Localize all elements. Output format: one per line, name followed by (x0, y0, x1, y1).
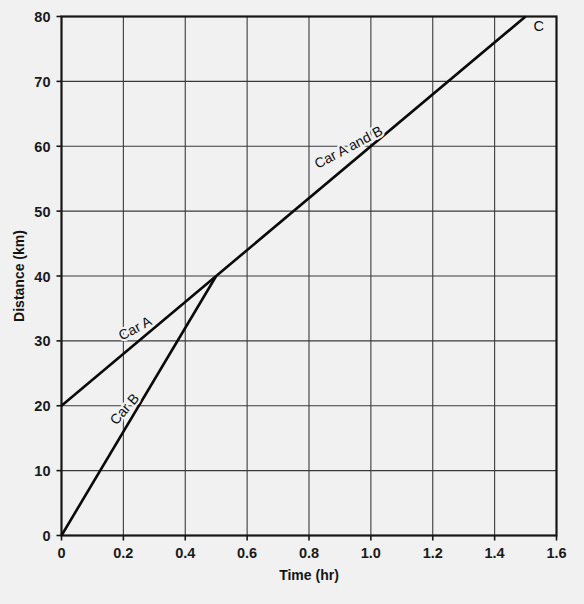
x-tick-label: 1.6 (546, 545, 566, 561)
x-tick-label: 0.6 (237, 545, 257, 561)
y-tick-label: 80 (34, 9, 50, 25)
point-annotation-label: C (534, 18, 544, 34)
x-tick-label: 0.8 (299, 545, 319, 561)
x-tick-label: 1.2 (423, 545, 443, 561)
distance-time-chart: 00.20.40.60.81.01.21.41.6 01020304050607… (0, 0, 584, 604)
series-label-group: Car ACar A (116, 312, 155, 343)
axis-tickmarks (57, 17, 557, 541)
x-tick-label: 0.2 (113, 545, 133, 561)
x-axis-tick-labels: 00.20.40.60.81.01.21.41.6 (57, 545, 566, 561)
y-axis-title: Distance (km) (11, 230, 27, 322)
y-tick-label: 10 (34, 463, 50, 479)
chart-svg: 00.20.40.60.81.01.21.41.6 01020304050607… (0, 0, 584, 604)
y-tick-label: 0 (42, 528, 50, 544)
x-tick-label: 0 (57, 545, 65, 561)
y-tick-label: 40 (34, 269, 50, 285)
x-tick-label: 0.4 (175, 545, 195, 561)
y-tick-label: 50 (34, 204, 50, 220)
series-label-text: Car A (116, 312, 155, 343)
y-tick-label: 60 (34, 139, 50, 155)
y-tick-label: 30 (34, 333, 50, 349)
y-tick-label: 20 (34, 398, 50, 414)
x-axis-title: Time (hr) (279, 567, 339, 583)
point-annotations: C (534, 18, 544, 34)
x-tick-label: 1.4 (485, 545, 505, 561)
y-axis-tick-labels: 01020304050607080 (34, 9, 50, 544)
x-tick-label: 1.0 (361, 545, 381, 561)
y-tick-label: 70 (34, 74, 50, 90)
